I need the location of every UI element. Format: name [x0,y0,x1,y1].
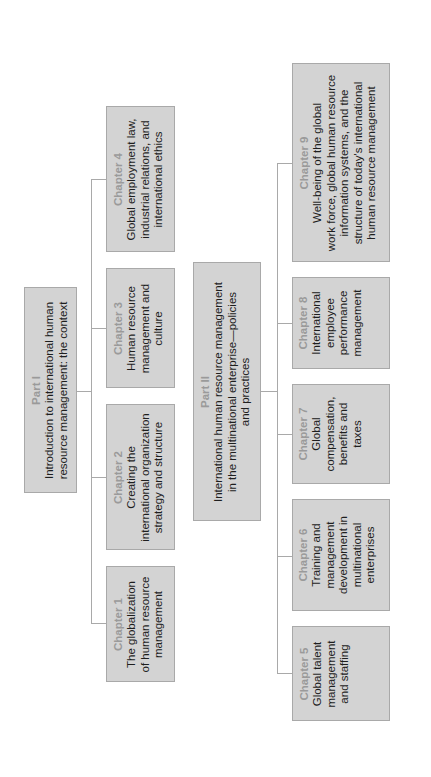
connector-part1-trunk [91,179,92,624]
chapter-4-title-line: Global employment law, [124,106,138,252]
connector-chapter5 [277,673,292,674]
chapter-7-title-line: Global [310,384,324,484]
chapter-3-box: Chapter 3 Human resource management and … [106,268,175,388]
chapter-7-title-line: taxes [351,384,365,484]
chapter-9-title-line: Well-being of the global [310,63,324,262]
connector-chapter7 [277,434,292,435]
part-1-box: Part I Introduction to international hum… [24,287,77,493]
chapter-4-title-line: international ethics [151,106,165,252]
chapter-5-title-line: Global talent [310,626,324,721]
chapter-3-title-line: culture [151,268,165,388]
chapter-6-title-line: multinational [351,499,365,611]
connector-chapter6 [277,556,292,557]
part-2-title-line: in the multinational enterprise—policies [225,262,239,521]
chapter-9-title-line: human resource management [364,63,378,262]
chapter-5-title-line: management [324,626,338,721]
part-2-title-line: and practices [238,262,252,521]
connector-part2-trunk [277,163,278,674]
connector-part1-stem [77,391,91,392]
connector-chapter3 [91,328,106,329]
chapter-9-title-line: work force, global human resource [324,63,338,262]
chapter-9-box: Chapter 9 Well-being of the global work … [292,63,390,262]
chapter-2-title-line: strategy and structure [151,404,165,550]
chapter-7-box: Chapter 7 Global compensation, benefits … [292,384,390,484]
connector-chapter1 [91,623,106,624]
chapter-8-title-line: performance [337,277,351,369]
part-2-label: Part II [198,262,211,521]
part-1-label: Part I [29,287,42,493]
chapter-3-title-line: management and [138,268,152,388]
chapter-4-label: Chapter 4 [111,106,124,252]
chapter-8-title-line: employee [324,277,338,369]
chapter-6-box: Chapter 6 Training and management develo… [292,499,390,611]
part-2-title-line: International human resource management [211,262,225,521]
chapter-9-label: Chapter 9 [297,63,310,262]
chapter-6-title-line: Training and [310,499,324,611]
connector-chapter8 [277,323,292,324]
chapter-2-label: Chapter 2 [111,404,124,550]
chapter-2-title-line: international organization [138,404,152,550]
chapter-8-title-line: management [351,277,365,369]
chapter-7-title-line: compensation, [324,384,338,484]
chapter-5-label: Chapter 5 [297,626,310,721]
chapter-6-title-line: management [324,499,338,611]
chapter-9-title-line: information systems, and the [337,63,351,262]
chapter-2-box: Chapter 2 Creating the international org… [106,404,175,550]
chapter-1-title-line: The globalization [124,566,138,682]
chapter-8-title-line: International [310,277,324,369]
chapter-8-label: Chapter 8 [297,277,310,369]
chapter-6-title-line: enterprises [364,499,378,611]
part-2-box: Part II International human resource man… [193,262,261,521]
chapter-9-title-line: structure of today's international [351,63,365,262]
chapter-6-title-line: development in [337,499,351,611]
connector-part2-stem [261,391,277,392]
chapter-1-title-line: of human resource [138,566,152,682]
part-1-title-line: Introduction to international human [42,287,56,493]
chapter-6-label: Chapter 6 [297,499,310,611]
chapter-7-title-line: benefits and [337,384,351,484]
chapter-1-title-line: management [151,566,165,682]
connector-chapter4 [91,179,106,180]
chapter-3-label: Chapter 3 [111,268,124,388]
connector-chapter2 [91,477,106,478]
chapter-7-label: Chapter 7 [297,384,310,484]
part-1-title-line: resource management: the context [56,287,70,493]
chapter-8-box: Chapter 8 International employee perform… [292,277,390,369]
chapter-4-title-line: industrial relations, and [138,106,152,252]
chapter-5-title-line: and staffing [337,626,351,721]
chapter-5-box: Chapter 5 Global talent management and s… [292,626,390,721]
chapter-3-title-line: Human resource [124,268,138,388]
connector-chapter9 [277,163,292,164]
chapter-2-title-line: Creating the [124,404,138,550]
chapter-1-box: Chapter 1 The globalization of human res… [106,566,175,682]
chapter-1-label: Chapter 1 [111,566,124,682]
chapter-4-box: Chapter 4 Global employment law, industr… [106,106,175,252]
